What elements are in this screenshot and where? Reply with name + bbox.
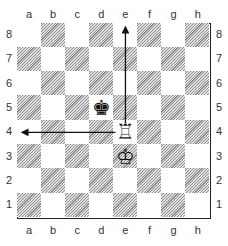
square-c5: [65, 95, 89, 119]
top-file-label-h: h: [186, 8, 210, 20]
square-f3: [137, 144, 161, 168]
square-a8: [17, 23, 41, 47]
square-d7: [89, 47, 113, 71]
square-e7: [113, 47, 137, 71]
bottom-file-label-b: b: [41, 224, 65, 236]
right-rank-label-4: 4: [213, 125, 225, 137]
square-c6: [65, 71, 89, 95]
top-file-label-b: b: [41, 8, 65, 20]
square-g4: [161, 120, 185, 144]
square-e5: [113, 95, 137, 119]
square-a3: [17, 144, 41, 168]
square-c4: [65, 120, 89, 144]
right-rank-label-6: 6: [213, 77, 225, 89]
square-a7: [17, 47, 41, 71]
white-king-icon: ♔: [113, 145, 137, 169]
top-file-label-e: e: [113, 8, 137, 20]
left-rank-label-4: 4: [3, 125, 15, 137]
bottom-file-label-h: h: [186, 224, 210, 236]
square-h5: [185, 95, 209, 119]
top-file-label-c: c: [65, 8, 89, 20]
square-h2: [185, 168, 209, 192]
top-file-label-d: d: [89, 8, 113, 20]
square-g6: [161, 71, 185, 95]
square-a4: [17, 120, 41, 144]
square-b5: [41, 95, 65, 119]
top-file-label-a: a: [17, 8, 41, 20]
square-f8: [137, 23, 161, 47]
bottom-file-label-e: e: [113, 224, 137, 236]
square-e2: [113, 168, 137, 192]
left-rank-label-5: 5: [3, 101, 15, 113]
bottom-file-label-f: f: [138, 224, 162, 236]
square-c3: [65, 144, 89, 168]
square-e8: [113, 23, 137, 47]
square-e1: [113, 193, 137, 217]
bottom-file-label-a: a: [17, 224, 41, 236]
square-g2: [161, 168, 185, 192]
square-b4: [41, 120, 65, 144]
square-c7: [65, 47, 89, 71]
bottom-file-label-c: c: [65, 224, 89, 236]
left-rank-label-6: 6: [3, 77, 15, 89]
left-rank-label-1: 1: [3, 198, 15, 210]
left-rank-label-8: 8: [3, 28, 15, 40]
square-c8: [65, 23, 89, 47]
square-g5: [161, 95, 185, 119]
square-h8: [185, 23, 209, 47]
square-c1: [65, 193, 89, 217]
square-d8: [89, 23, 113, 47]
square-e6: [113, 71, 137, 95]
left-rank-label-2: 2: [3, 174, 15, 186]
bottom-file-label-d: d: [89, 224, 113, 236]
square-b7: [41, 47, 65, 71]
left-rank-label-3: 3: [3, 150, 15, 162]
square-f7: [137, 47, 161, 71]
left-rank-label-7: 7: [3, 52, 15, 64]
square-g3: [161, 144, 185, 168]
square-b8: [41, 23, 65, 47]
square-h1: [185, 193, 209, 217]
top-file-label-f: f: [138, 8, 162, 20]
square-a5: [17, 95, 41, 119]
square-b6: [41, 71, 65, 95]
square-f1: [137, 193, 161, 217]
bottom-file-label-g: g: [162, 224, 186, 236]
square-g7: [161, 47, 185, 71]
square-a2: [17, 168, 41, 192]
square-d3: [89, 144, 113, 168]
square-a6: [17, 71, 41, 95]
square-h4: [185, 120, 209, 144]
square-f2: [137, 168, 161, 192]
square-g1: [161, 193, 185, 217]
square-d6: [89, 71, 113, 95]
square-a1: [17, 193, 41, 217]
square-h6: [185, 71, 209, 95]
square-f5: [137, 95, 161, 119]
square-h3: [185, 144, 209, 168]
black-king-icon: ♚: [89, 96, 113, 120]
right-rank-label-5: 5: [213, 101, 225, 113]
right-rank-label-3: 3: [213, 150, 225, 162]
square-d4: [89, 120, 113, 144]
square-d2: [89, 168, 113, 192]
square-f6: [137, 71, 161, 95]
square-h7: [185, 47, 209, 71]
right-rank-label-8: 8: [213, 28, 225, 40]
square-g8: [161, 23, 185, 47]
square-b1: [41, 193, 65, 217]
right-rank-label-7: 7: [213, 52, 225, 64]
top-file-label-g: g: [162, 8, 186, 20]
square-d1: [89, 193, 113, 217]
right-rank-label-1: 1: [213, 198, 225, 210]
white-rook-icon: ♖: [113, 120, 137, 144]
square-b2: [41, 168, 65, 192]
square-f4: [137, 120, 161, 144]
square-c2: [65, 168, 89, 192]
square-b3: [41, 144, 65, 168]
right-rank-label-2: 2: [213, 174, 225, 186]
